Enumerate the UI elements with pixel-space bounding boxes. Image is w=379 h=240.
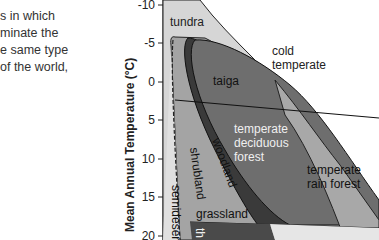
biome-diagram: -10 -5 0 5 10 15 20 Mean Annual Temperat…: [0, 0, 379, 240]
deciduous-label-1: temperate: [234, 122, 288, 136]
cold-temperate-label-1: cold: [272, 44, 294, 58]
tick-label: 0: [148, 75, 155, 89]
deciduous-label-3: forest: [234, 150, 265, 164]
deciduous-label-2: deciduous: [234, 136, 289, 150]
y-axis-tick-labels: -10 -5 0 5 10 15 20: [138, 0, 156, 240]
y-axis-ticks: [158, 5, 163, 236]
grassland-label: grassland: [196, 207, 248, 221]
rain-forest-label-2: rain forest: [307, 177, 361, 191]
semidesert-label: semidesert: [169, 185, 183, 240]
tick-label: 10: [142, 152, 156, 166]
tick-label: -10: [138, 0, 156, 12]
y-axis-label: Mean Annual Temperature (°C): [123, 58, 137, 232]
rain-forest-label-1: temperate: [307, 163, 361, 177]
tick-label: 15: [142, 190, 156, 204]
cold-temperate-label-2: temperate: [272, 58, 326, 72]
tick-label: -5: [144, 36, 155, 50]
tundra-label: tundra: [170, 15, 204, 29]
tick-label: 5: [148, 113, 155, 127]
tick-label: 20: [142, 229, 156, 240]
taiga-label: taiga: [213, 74, 239, 88]
thorn-label-partial: th: [193, 228, 207, 238]
